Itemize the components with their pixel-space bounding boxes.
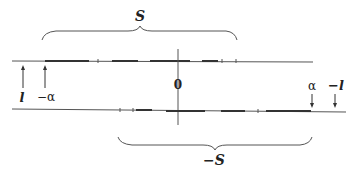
arrow-down-neg-l [333, 94, 337, 108]
label-alpha: α [308, 79, 316, 93]
diagram-canvas: S 0 l −α α −l [0, 0, 356, 170]
origin-label: 0 [174, 78, 182, 92]
bottom-brace [118, 137, 312, 150]
label-neg-l: −l [328, 78, 344, 93]
bottom-brace-label: −S [203, 152, 225, 168]
arrow-down-alpha [310, 94, 314, 108]
top-brace-label: S [135, 8, 145, 24]
top-brace [42, 26, 237, 40]
arrow-up-neg-alpha [43, 65, 47, 88]
arrow-up-l [21, 65, 25, 88]
label-l: l [20, 90, 25, 105]
label-neg-alpha: −α [37, 90, 55, 104]
